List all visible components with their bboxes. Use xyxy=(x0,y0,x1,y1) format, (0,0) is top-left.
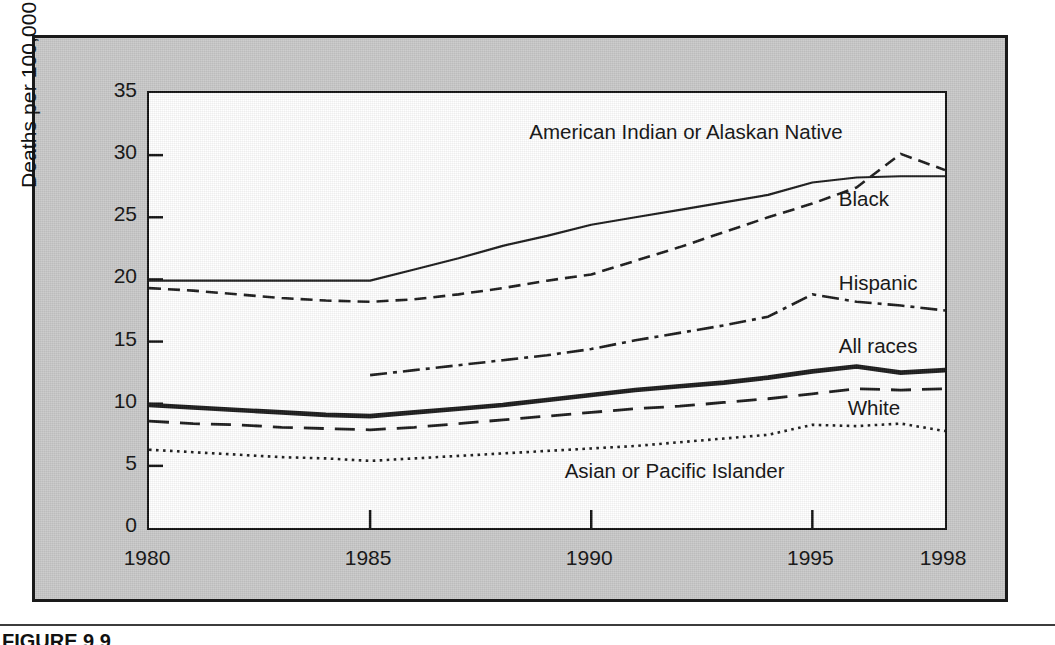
x-tick-label: 1980 xyxy=(102,546,192,570)
series-label: All races xyxy=(839,334,918,358)
x-tick-label: 1998 xyxy=(898,546,988,570)
y-tick-label: 15 xyxy=(95,327,137,351)
y-tick-label: 35 xyxy=(95,78,137,102)
series-line xyxy=(149,176,945,280)
y-tick-label: 30 xyxy=(95,140,137,164)
series-label: Hispanic xyxy=(839,271,918,295)
line-chart-canvas xyxy=(149,93,945,528)
series-label: American Indian or Alaskan Native xyxy=(529,120,842,144)
figure-caption: FIGURE 9.9 xyxy=(2,630,111,645)
y-tick-label: 5 xyxy=(95,451,137,475)
y-tick-label: 25 xyxy=(95,202,137,226)
x-tick-label: 1990 xyxy=(544,546,634,570)
y-axis-title: Deaths per 100,000 population xyxy=(17,0,41,188)
caption-divider xyxy=(0,624,1055,626)
y-tick-label: 0 xyxy=(95,513,137,537)
series-line xyxy=(149,424,945,461)
y-tick-label: 20 xyxy=(95,264,137,288)
x-tick-label: 1995 xyxy=(765,546,855,570)
series-line xyxy=(149,389,945,430)
series-line xyxy=(149,366,945,416)
plot-area: American Indian or Alaskan NativeBlackHi… xyxy=(147,91,947,530)
x-tick-label: 1985 xyxy=(323,546,413,570)
series-label: Asian or Pacific Islander xyxy=(565,459,785,483)
series-label: Black xyxy=(839,187,889,211)
series-label: White xyxy=(848,396,900,420)
figure-panel: Deaths per 100,000 population 0510152025… xyxy=(32,35,1008,602)
y-tick-label: 10 xyxy=(95,389,137,413)
